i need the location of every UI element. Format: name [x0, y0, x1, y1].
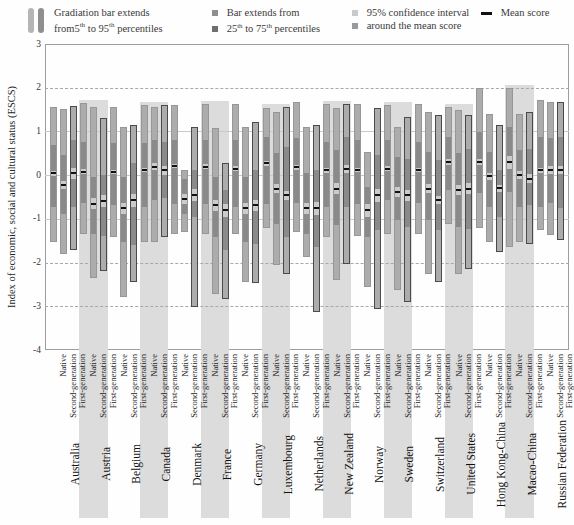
legend-mean-label: Mean score	[501, 7, 550, 18]
legend-ci-line1: 95% confidence interval	[367, 7, 470, 18]
mean-line	[253, 204, 258, 206]
legend-iqr-line1: Bar extends from	[227, 7, 300, 18]
y-tick-label: -2	[23, 257, 41, 268]
gridline--3	[45, 306, 569, 307]
mean-line	[507, 161, 512, 163]
mean-line	[213, 204, 218, 206]
y-tick-label: -3	[23, 301, 41, 312]
category-label: First-generation	[473, 354, 483, 408]
mean-line	[477, 161, 482, 163]
interquartile-bar	[172, 140, 177, 203]
country-label: United States	[465, 433, 478, 495]
country-label: Belgium	[130, 444, 143, 484]
category-label: Native	[301, 354, 311, 377]
y-tick-label: -1	[23, 213, 41, 224]
mean-line	[426, 188, 431, 190]
category-label: Second-generation	[250, 354, 260, 418]
mean-line	[466, 188, 471, 190]
category-label: First-generation	[504, 354, 514, 408]
interquartile-bar	[497, 170, 502, 217]
country-label: Norway	[373, 446, 386, 483]
category-label: Second-generation	[189, 354, 199, 418]
ci-light-square-icon	[352, 10, 358, 16]
mean-line	[233, 168, 238, 170]
interquartile-bar	[294, 138, 299, 203]
legend-item-iqr-bar: Bar extends from 25th to 75th percentile…	[212, 6, 320, 35]
country-label: Australia	[69, 443, 82, 485]
y-tick-label: 3	[23, 39, 41, 50]
country-label: Germany	[252, 443, 265, 486]
mean-line	[223, 209, 228, 211]
legend-item-confidence-interval: 95% confidence interval around the mean …	[352, 6, 469, 32]
mean-line	[274, 188, 279, 190]
category-label: First-generation	[534, 354, 544, 408]
interquartile-bar	[111, 143, 116, 205]
category-label: Second-generation	[68, 354, 78, 418]
category-label: First-generation	[169, 354, 179, 408]
country-label: Luxembourg	[282, 435, 295, 494]
category-label: Native	[331, 354, 341, 377]
mean-line	[416, 169, 421, 171]
mean-line	[355, 169, 360, 171]
mean-line	[91, 203, 96, 205]
mean-line	[548, 169, 553, 171]
mean-line	[284, 194, 289, 196]
y-axis-title: Index of economic, social and cultural s…	[6, 86, 17, 308]
gridline-2	[45, 88, 569, 89]
mean-line	[152, 166, 157, 168]
category-label: First-generation	[199, 354, 209, 408]
category-label: Native	[240, 354, 250, 377]
legend-item-mean-score: Mean score	[481, 6, 549, 19]
category-label: Native	[179, 354, 189, 377]
category-label: Native	[545, 354, 555, 377]
y-tick-label: 1	[23, 126, 41, 137]
category-label: First-generation	[382, 354, 392, 408]
category-label: Second-generation	[220, 354, 230, 418]
category-label: Native	[271, 354, 281, 377]
country-label: France	[221, 449, 234, 480]
ci-mid-square-icon	[352, 23, 358, 29]
country-label: New Zealand	[343, 433, 356, 495]
category-label: Second-generation	[402, 354, 412, 418]
category-label: Native	[514, 354, 524, 377]
legend: Gradiation bar extends from5th to 95th p…	[0, 6, 574, 40]
category-label: First-generation	[78, 354, 88, 408]
category-label: Native	[149, 354, 159, 377]
category-label: Second-generation	[463, 354, 473, 418]
interquartile-bar	[51, 145, 56, 208]
category-label: Second-generation	[524, 354, 534, 418]
interquartile-bar	[416, 142, 421, 204]
mean-line	[203, 166, 208, 168]
figure: Gradiation bar extends from5th to 95th p…	[0, 0, 574, 525]
mean-line	[264, 162, 269, 164]
category-label: Second-generation	[372, 354, 382, 418]
country-label: Hong Kong-China	[495, 422, 508, 507]
category-label: Native	[423, 354, 433, 377]
category-label: Native	[58, 354, 68, 377]
category-label: First-generation	[412, 354, 422, 408]
category-label: First-generation	[260, 354, 270, 408]
interquartile-bar	[264, 137, 269, 204]
country-label: Netherlands	[313, 436, 326, 492]
mean-dash-icon	[481, 12, 492, 15]
gradation-bar-dark-icon	[38, 8, 44, 33]
mean-line	[344, 168, 349, 170]
mean-line	[121, 207, 126, 209]
mean-line	[456, 189, 461, 191]
y-tick-label: -4	[23, 345, 41, 356]
legend-item-gradation-bar: Gradiation bar extends from5th to 95th p…	[28, 6, 163, 35]
category-label: Second-generation	[311, 354, 321, 418]
mean-line	[436, 199, 441, 201]
mean-line	[375, 194, 380, 196]
interquartile-bar	[487, 152, 492, 207]
interquartile-bar	[142, 143, 147, 207]
mean-line	[51, 172, 56, 174]
category-label: Second-generation	[494, 354, 504, 418]
category-label: First-generation	[321, 354, 331, 408]
legend-gradation-line1: Gradiation bar extends	[54, 6, 163, 19]
category-label: First-generation	[443, 354, 453, 408]
mean-line	[497, 187, 502, 189]
mean-line	[446, 161, 451, 163]
category-label: Native	[88, 354, 98, 377]
category-label: Native	[362, 354, 372, 377]
